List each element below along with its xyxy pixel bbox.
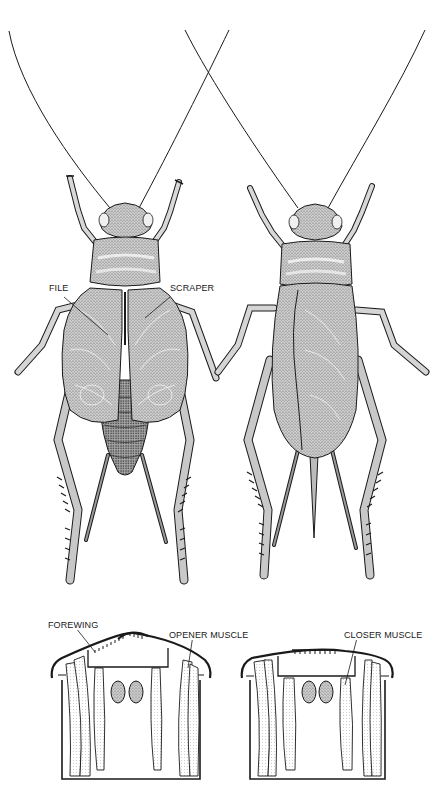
label-opener-muscle: OPENER MUSCLE — [168, 630, 249, 640]
female-cricket — [185, 30, 426, 575]
opener-muscle-left — [94, 668, 105, 770]
opener-muscle-right — [151, 668, 162, 770]
label-closer-muscle: CLOSER MUSCLE — [343, 630, 423, 640]
label-file: FILE — [48, 283, 69, 293]
male-forewing-right — [128, 288, 188, 422]
female-pronotum — [280, 241, 352, 288]
male-cricket — [9, 30, 229, 580]
male-antenna-right — [139, 30, 229, 208]
cross-section-open — [52, 623, 211, 779]
closer-muscle — [340, 678, 353, 770]
female-antenna-left — [185, 30, 298, 208]
female-antenna-right — [328, 30, 425, 208]
cricket-diagram — [0, 0, 447, 787]
male-forewing-left — [62, 288, 122, 422]
male-antenna-left — [9, 31, 110, 208]
label-forewing: FOREWING — [47, 620, 99, 630]
male-pronotum — [90, 237, 160, 286]
female-body — [272, 283, 358, 458]
cross-section-closed — [242, 638, 393, 779]
ovipositor — [310, 455, 318, 538]
label-scraper: SCRAPER — [169, 283, 215, 293]
